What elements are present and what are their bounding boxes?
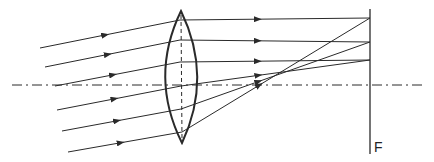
focal-plane-label: F bbox=[374, 139, 383, 155]
ray-2 bbox=[45, 40, 370, 67]
convex-lens bbox=[165, 11, 197, 143]
ray-1 bbox=[40, 18, 370, 48]
ray-5 bbox=[62, 42, 370, 131]
lens-center-line bbox=[181, 15, 182, 139]
lens-ray-diagram bbox=[0, 0, 434, 162]
